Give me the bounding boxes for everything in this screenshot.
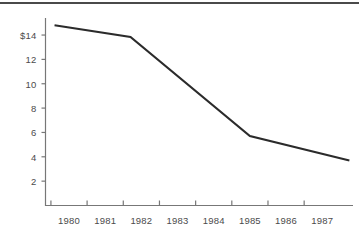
x-axis-tick-label: 1981	[94, 215, 116, 226]
chart-page: $1412108642 1980198119821983198419851986…	[0, 0, 359, 246]
line-chart: $1412108642 1980198119821983198419851986…	[0, 0, 359, 246]
x-axis-tick-label: 1987	[311, 215, 333, 226]
chart-plot-svg	[0, 0, 359, 246]
y-axis-tick-label: 4	[0, 151, 37, 162]
x-axis-tick-label: 1983	[167, 215, 189, 226]
x-axis-tick-label: 1985	[239, 215, 261, 226]
y-axis-tick-label: 2	[0, 176, 37, 187]
y-axis-tick-label: 12	[0, 54, 37, 65]
y-axis-tick-label: 10	[0, 78, 37, 89]
y-axis-tick-label: $14	[0, 30, 37, 41]
x-axis-tick-label: 1980	[58, 215, 80, 226]
x-axis-tick-label: 1984	[203, 215, 225, 226]
x-axis-tick-label: 1982	[130, 215, 152, 226]
data-series-line	[55, 25, 350, 160]
x-axis-ticks	[51, 201, 304, 206]
x-axis-tick-label: 1986	[275, 215, 297, 226]
y-axis-tick-label: 8	[0, 103, 37, 114]
y-axis-tick-label: 6	[0, 127, 37, 138]
